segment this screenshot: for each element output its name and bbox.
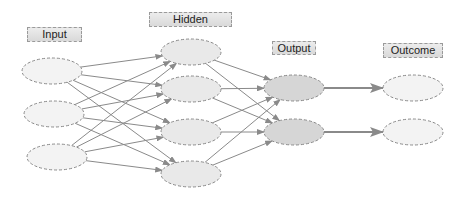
hidden-to-output-edge bbox=[213, 141, 272, 165]
input-to-hidden-edge bbox=[83, 118, 163, 128]
input-to-hidden-edge bbox=[81, 56, 163, 67]
input-layer-label: Input bbox=[27, 27, 82, 42]
edges bbox=[67, 56, 383, 170]
outcome-node-2 bbox=[383, 119, 443, 145]
input-to-hidden-edge bbox=[75, 61, 171, 104]
output-layer-label: Output bbox=[272, 41, 316, 55]
input-to-hidden-edge bbox=[86, 161, 162, 171]
output-node-2 bbox=[264, 119, 324, 145]
input-to-hidden-edge bbox=[76, 99, 171, 147]
hidden-node-1 bbox=[161, 39, 221, 65]
nodes bbox=[22, 39, 443, 187]
output-node-1 bbox=[264, 75, 324, 101]
outcome-layer-label: Outcome bbox=[383, 43, 443, 58]
input-node-1 bbox=[22, 58, 82, 84]
input-to-hidden-edge bbox=[75, 123, 170, 165]
hidden-node-3 bbox=[161, 119, 221, 145]
hidden-layer-label: Hidden bbox=[149, 12, 232, 27]
input-node-2 bbox=[24, 101, 84, 127]
hidden-node-4 bbox=[161, 161, 221, 187]
hidden-node-2 bbox=[161, 76, 221, 102]
input-node-3 bbox=[27, 144, 87, 170]
outcome-node-1 bbox=[383, 75, 443, 101]
